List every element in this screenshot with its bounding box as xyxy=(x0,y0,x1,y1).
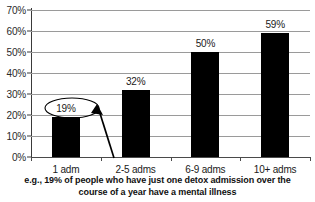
bar-1-adm xyxy=(52,117,80,157)
bar-value-label: 59% xyxy=(265,19,284,30)
y-axis-label: 20% xyxy=(7,110,26,121)
y-axis-label: 60% xyxy=(7,26,26,37)
chart-caption: e.g., 19% of people who have just one de… xyxy=(0,174,315,198)
bar-10-adms xyxy=(261,33,289,157)
y-tick-mark xyxy=(27,31,31,32)
gridline-70pct xyxy=(31,10,310,11)
y-tick-mark xyxy=(27,52,31,53)
y-tick-mark xyxy=(27,73,31,74)
bar-value-label: 19% xyxy=(56,103,75,114)
y-axis-label: 30% xyxy=(7,89,26,100)
gridline-60pct xyxy=(31,31,310,32)
bar-chart-figure: 0%10%20%30%40%50%60%70%19%1 adm32%2-5 ad… xyxy=(0,0,315,202)
y-axis-label: 70% xyxy=(7,5,26,16)
x-tick-mark xyxy=(240,157,241,161)
y-tick-mark xyxy=(27,136,31,137)
y-tick-mark xyxy=(27,94,31,95)
bar-value-label: 50% xyxy=(196,38,215,49)
y-axis-label: 0% xyxy=(12,152,26,163)
bar-value-label: 32% xyxy=(126,76,145,87)
y-tick-mark xyxy=(27,115,31,116)
bar-6-9-adms xyxy=(191,52,219,157)
plot-area: 0%10%20%30%40%50%60%70%19%1 adm32%2-5 ad… xyxy=(31,10,310,157)
bar-2-5-adms xyxy=(122,90,150,157)
y-axis-label: 40% xyxy=(7,68,26,79)
y-axis-label: 10% xyxy=(7,131,26,142)
x-tick-mark xyxy=(31,157,32,161)
x-tick-mark xyxy=(101,157,102,161)
caption-line-2: course of a year have a mental illness xyxy=(0,186,315,198)
x-tick-mark xyxy=(171,157,172,161)
x-tick-mark xyxy=(310,157,311,161)
caption-line-1: e.g., 19% of people who have just one de… xyxy=(0,174,315,186)
y-tick-mark xyxy=(27,10,31,11)
y-axis-label: 50% xyxy=(7,47,26,58)
